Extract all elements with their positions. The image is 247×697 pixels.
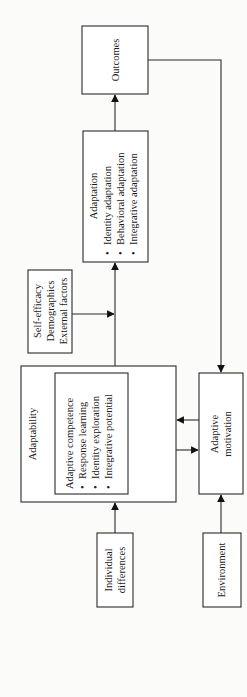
competence-bullet-glyph: •	[77, 485, 88, 489]
node-adaptation: Adaptation • Identity adaptation • Behav…	[83, 131, 148, 262]
competence-bullet-integrative-potential: Integrative potential	[103, 394, 114, 479]
node-adaptability: Adaptability Adaptive competence • Respo…	[21, 366, 176, 502]
moderator-demographics: Demographics	[45, 280, 56, 341]
adaptation-bullet-integrative: Integrative adaptation	[128, 152, 139, 245]
edge-outcomes-to-adaptive-motivation	[148, 60, 221, 372]
node-environment: Environment	[203, 533, 241, 607]
adaptability-model-diagram: Outcomes Adaptation • Identity adaptatio…	[0, 0, 247, 697]
node-adaptive-competence: Adaptive competence • Response learning …	[55, 373, 128, 494]
adaptation-bullet-glyph: •	[128, 251, 139, 255]
node-individual-differences: Individual differences	[97, 533, 133, 607]
adaptation-bullet-glyph: •	[115, 251, 126, 255]
individual-differences-line-2: differences	[116, 547, 127, 593]
adaptation-bullet-behavioral: Behavioral adaptation	[115, 152, 126, 245]
competence-bullet-glyph: •	[90, 485, 101, 489]
adaptation-bullet-identity: Identity adaptation	[102, 165, 113, 245]
competence-bullet-identity-exploration: Identity exploration	[90, 395, 101, 479]
adaptation-bullet-glyph: •	[102, 251, 113, 255]
competence-bullet-response-learning: Response learning	[77, 401, 88, 479]
node-outcomes: Outcomes	[82, 26, 148, 94]
environment-label: Environment	[216, 543, 227, 598]
node-moderators: Self-efficacy Demographics External fact…	[28, 270, 72, 353]
adaptability-title: Adaptability	[27, 407, 38, 460]
outcomes-label: Outcomes	[110, 39, 121, 82]
adaptive-motivation-line-2: motivation	[222, 411, 233, 457]
individual-differences-line-1: Individual	[103, 548, 114, 591]
adaptation-title: Adaptation	[88, 172, 99, 219]
moderator-external-factors: External factors	[58, 278, 69, 345]
node-adaptive-motivation: Adaptive motivation	[199, 373, 243, 494]
adaptive-motivation-line-1: Adaptive	[209, 414, 220, 453]
moderator-self-efficacy: Self-efficacy	[32, 283, 43, 338]
adaptive-competence-title: Adaptive competence	[64, 397, 75, 489]
competence-bullet-glyph: •	[103, 485, 114, 489]
